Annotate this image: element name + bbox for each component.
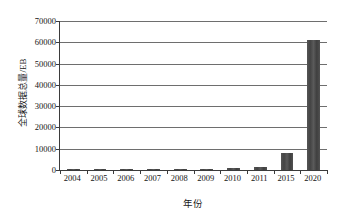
bar [174, 169, 187, 170]
bar [307, 40, 320, 170]
bar [281, 153, 294, 170]
bar-slot [140, 21, 167, 170]
x-tick-label: 2006 [112, 173, 139, 183]
bar-slot [87, 21, 114, 170]
bar [227, 168, 240, 170]
y-axis-tick-labels: 010000200003000040000500006000070000 [16, 21, 56, 170]
bar-slot [194, 21, 221, 170]
bar [147, 169, 160, 170]
bar-slot [300, 21, 327, 170]
x-tick-label: 2004 [59, 173, 86, 183]
bar-slot [274, 21, 301, 170]
x-tick-label: 2008 [166, 173, 193, 183]
bar [254, 167, 267, 170]
x-tick-label: 2005 [86, 173, 113, 183]
y-tick-label: 60000 [16, 37, 56, 47]
y-tick-label: 50000 [16, 59, 56, 69]
bar-slot [220, 21, 247, 170]
x-axis-tick-labels: 2004200520062007200820092010201120152020 [59, 173, 326, 183]
x-tickmark [327, 170, 328, 174]
bar-slot [113, 21, 140, 170]
y-tick-label: 0 [16, 165, 56, 175]
y-tick-label: 40000 [16, 80, 56, 90]
bar-slot [167, 21, 194, 170]
y-tick-label: 70000 [16, 16, 56, 26]
x-axis-title: 年份 [59, 196, 326, 210]
chart-figure: 全球数据总量/EB 010000200003000040000500006000… [0, 0, 337, 222]
x-tick-label: 2010 [219, 173, 246, 183]
bar-series [60, 21, 327, 170]
x-tick-label: 2009 [193, 173, 220, 183]
plot-area [59, 21, 327, 171]
x-tick-label: 2020 [299, 173, 326, 183]
x-tick-label: 2007 [139, 173, 166, 183]
bar [200, 169, 213, 170]
bar-slot [60, 21, 87, 170]
x-tick-label: 2015 [273, 173, 300, 183]
y-tick-label: 20000 [16, 122, 56, 132]
bar-slot [247, 21, 274, 170]
y-tick-label: 10000 [16, 144, 56, 154]
x-tick-label: 2011 [246, 173, 273, 183]
bar [94, 169, 107, 170]
bar [120, 169, 133, 170]
bar [67, 169, 80, 170]
y-tick-label: 30000 [16, 101, 56, 111]
